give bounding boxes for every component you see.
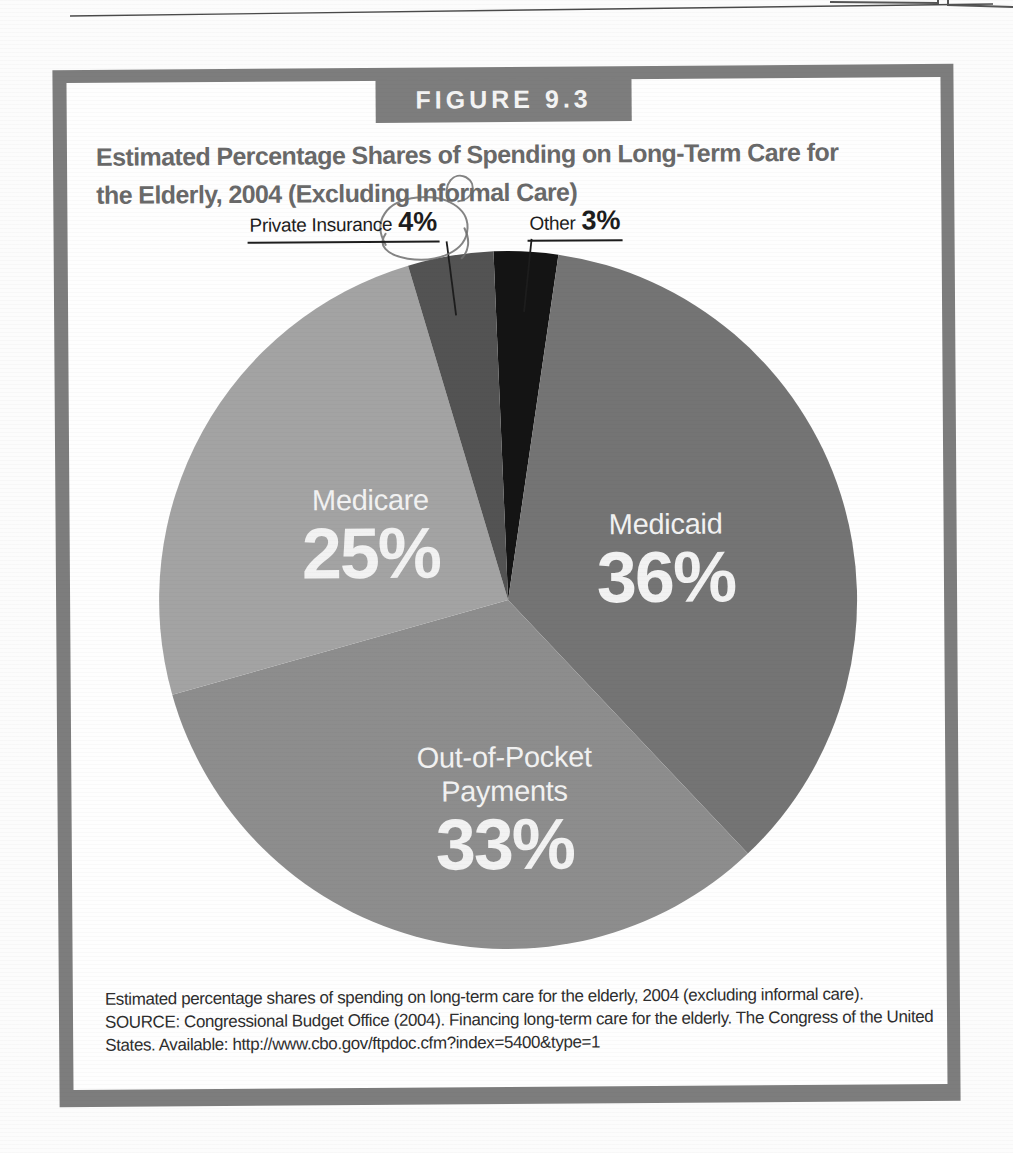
label-medicaid: Medicaid 36% [596,506,735,613]
figure-box: FIGURE 9.3 Estimated Percentage Shares o… [52,64,960,1107]
header-rule-line [70,4,993,16]
label-private-insurance: Private Insurance4% [247,206,439,243]
pie-chart [66,77,947,1089]
out-of-pocket-percent: 33% [417,807,592,880]
out-of-pocket-label-line1: Out-of-Pocket [417,739,592,774]
medicaid-percent: 36% [597,540,736,613]
other-label: Other [529,213,575,234]
label-other: Other3% [527,205,622,242]
figure-caption: Estimated percentage shares of spending … [105,982,934,1057]
label-medicare: Medicare 25% [301,482,440,589]
page-header-rule [0,0,1013,60]
label-out-of-pocket: Out-of-Pocket Payments 33% [417,739,593,880]
page-number-box-left [830,0,938,3]
medicare-percent: 25% [301,516,440,589]
private-insurance-label: Private Insurance [249,214,392,236]
private-insurance-percent: 4% [398,206,437,236]
other-percent: 3% [581,205,620,235]
